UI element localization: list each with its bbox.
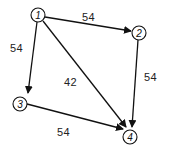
edge-label-1-2: 54 <box>82 11 95 23</box>
edge-label-1-4: 42 <box>64 76 77 88</box>
node-1: 1 <box>31 8 45 22</box>
edge-1-3 <box>28 22 37 93</box>
node-1-label: 1 <box>35 10 41 21</box>
node-3: 3 <box>13 97 27 111</box>
edge-label-3-4: 54 <box>57 126 70 138</box>
edge-3-4 <box>27 104 123 129</box>
node-4-label: 4 <box>127 132 133 143</box>
edge-label-2-4: 54 <box>144 71 157 83</box>
node-2: 2 <box>132 26 146 40</box>
edge-label-1-3: 54 <box>10 42 23 54</box>
edge-2-4 <box>132 40 138 127</box>
graph-diagram: 54 54 42 54 54 1 2 3 4 <box>0 0 169 151</box>
node-2-label: 2 <box>135 28 142 39</box>
node-3-label: 3 <box>17 99 23 110</box>
node-4: 4 <box>123 130 137 144</box>
